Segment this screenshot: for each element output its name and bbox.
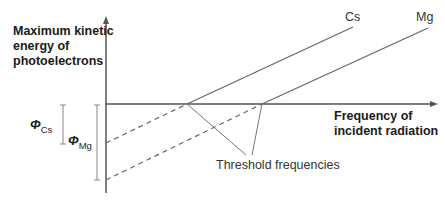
y-axis-label-line: energy of: [13, 39, 114, 54]
phi-cs-bracket: [60, 105, 66, 144]
phi-mg-bracket: [94, 105, 100, 180]
y-axis-arrow-icon: [103, 16, 109, 24]
cs-line-label: Cs: [345, 10, 360, 25]
phi-symbol: Φ: [68, 133, 79, 148]
y-axis-label: Maximum kinetic energy of photoelectrons: [13, 24, 114, 69]
cs-dashed-extension: [106, 104, 187, 143]
threshold-frequencies-label: Threshold frequencies: [216, 158, 340, 173]
x-axis-arrow-icon: [430, 101, 438, 107]
x-axis-label-line: incident radiation: [334, 124, 438, 139]
cs-threshold-pointer: [187, 104, 246, 155]
mg-line-label: Mg: [416, 10, 433, 25]
phi-subscript: Mg: [79, 140, 92, 151]
phi-subscript: Cs: [41, 124, 53, 135]
phi-symbol: Φ: [30, 117, 41, 132]
cs-line: [187, 27, 353, 104]
y-axis-label-line: Maximum kinetic: [13, 24, 114, 39]
mg-line: [262, 28, 428, 104]
phi-mg-label: ΦMg: [68, 133, 92, 149]
x-axis-label: Frequency of incident radiation: [334, 109, 438, 139]
mg-threshold-pointer: [252, 104, 262, 155]
x-axis-label-line: Frequency of: [334, 109, 438, 124]
y-axis-label-line: photoelectrons: [13, 54, 114, 69]
phi-cs-label: ΦCs: [30, 117, 52, 133]
